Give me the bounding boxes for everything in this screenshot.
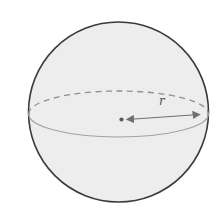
sphere-figure: r [0, 0, 222, 219]
center-dot [119, 117, 123, 121]
sphere-outline [29, 22, 209, 202]
sphere-diagram: r [0, 0, 222, 219]
